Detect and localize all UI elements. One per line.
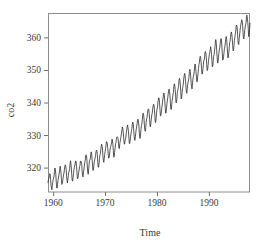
y-tick-label: 350	[27, 65, 42, 75]
co2-time-series-figure: 320330340350360 1960197019801990 Time co…	[0, 0, 268, 249]
y-tick-label: 360	[27, 33, 42, 43]
x-tick-label: 1970	[96, 198, 115, 208]
x-axis-title: Time	[140, 227, 161, 238]
x-tick-label: 1990	[199, 198, 218, 208]
x-tick-label: 1960	[44, 198, 63, 208]
y-tick-label: 330	[27, 131, 42, 141]
y-axis-title: co2	[5, 103, 16, 117]
y-tick-label: 320	[27, 163, 42, 173]
x-tick-label: 1980	[147, 198, 166, 208]
chart-canvas: 320330340350360 1960197019801990 Time co…	[0, 0, 268, 249]
y-tick-label: 340	[27, 98, 42, 108]
